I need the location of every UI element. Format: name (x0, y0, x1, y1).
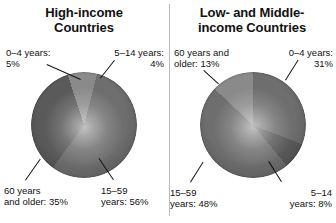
callout-15-59-years: 15–59 years: 48% (170, 188, 240, 209)
callout-5-14-years: 5–14 years: 4% (96, 48, 164, 69)
pie-chart-low-middle-income (200, 72, 306, 178)
page-title-low-middle-income: Low- and Middle- income Countries (168, 6, 336, 35)
callout-5-14-years: 5–14 years: 8% (262, 188, 332, 209)
footnote-text (0, 216, 336, 223)
callout-0-4-years: 0–4 years: 5% (6, 48, 68, 69)
callout-60-years-and-older: 60 years and older: 13% (174, 48, 248, 69)
callout-0-4-years: 0–4 years: 31% (263, 48, 333, 69)
page-title-high-income: High-income Countries (0, 6, 168, 35)
pie-chart-high-income (31, 72, 137, 178)
panel-high-income: High-income Countries 0–4 years: 5% 5–14… (0, 0, 168, 223)
callout-15-59-years: 15–59 years: 56% (101, 186, 167, 207)
pie-slices (200, 72, 306, 178)
panel-low-middle-income: Low- and Middle- income Countries 60 yea… (168, 0, 336, 223)
pie-disc (31, 72, 137, 178)
pie-disc (200, 72, 306, 178)
pie-slices (31, 72, 137, 178)
figure-two-pie-charts: High-income Countries 0–4 years: 5% 5–14… (0, 0, 336, 223)
callout-60-years-and-older: 60 years and older: 35% (4, 186, 94, 207)
